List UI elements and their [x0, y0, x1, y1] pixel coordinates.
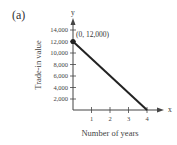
data-line — [73, 42, 147, 111]
x-tick-label: 1 — [90, 115, 93, 122]
point-annotation: (0, 12,000) — [76, 30, 110, 39]
data-point — [70, 39, 75, 44]
x-axis-title: Number of years — [81, 128, 138, 138]
x-axis-letter: x — [168, 105, 172, 114]
y-axis-title: Trade-in value — [33, 40, 43, 90]
x-tick-label: 3 — [127, 115, 130, 122]
x-axis-arrow-icon — [157, 108, 164, 113]
y-tick-label: 6,000 — [53, 72, 68, 79]
y-axis-letter: y — [71, 8, 75, 17]
y-ticks: 2,000 4,000 6,000 8,000 10,000 12,000 14… — [50, 26, 76, 102]
y-tick-label: 14,000 — [50, 26, 68, 33]
y-axis-arrow-icon — [71, 18, 76, 25]
y-tick-label: 4,000 — [53, 84, 68, 91]
chart: x y 1 2 3 4 2,000 4,000 6,000 8,000 10,0… — [0, 0, 177, 145]
y-tick-label: 2,000 — [53, 95, 68, 102]
x-ticks: 1 2 3 4 — [90, 107, 150, 122]
x-tick-label: 4 — [145, 115, 149, 122]
y-tick-label: 12,000 — [50, 38, 68, 45]
y-tick-label: 8,000 — [53, 61, 68, 68]
y-tick-label: 10,000 — [50, 49, 68, 56]
x-tick-label: 2 — [108, 115, 111, 122]
